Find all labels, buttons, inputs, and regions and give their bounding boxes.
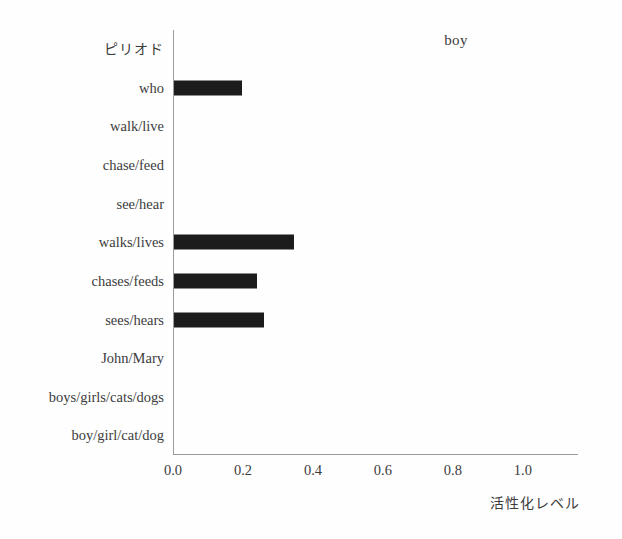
bar-row: walks/lives xyxy=(173,223,578,262)
bar xyxy=(174,80,242,95)
x-axis-tick-label: 1.0 xyxy=(514,462,532,479)
y-axis-tick-label: sees/hears xyxy=(105,313,164,328)
y-axis-tick-label: boy/girl/cat/dog xyxy=(71,428,164,443)
y-axis-tick-label: chase/feed xyxy=(103,158,164,173)
bar xyxy=(174,274,257,289)
bar-row: walk/live xyxy=(173,107,578,146)
y-axis-tick-label: John/Mary xyxy=(101,351,164,366)
x-axis-tick-label: 0.0 xyxy=(164,462,182,479)
bar-row: boys/girls/cats/dogs xyxy=(173,378,578,417)
bar-row: John/Mary xyxy=(173,339,578,378)
x-axis-title: 活性化レベル xyxy=(490,492,580,512)
bar-row: sees/hears xyxy=(173,300,578,339)
bar-row: who xyxy=(173,69,578,108)
bar xyxy=(174,312,264,327)
bar-row: boy/girl/cat/dog xyxy=(173,416,578,455)
y-axis-tick-label: walk/live xyxy=(110,119,164,134)
bar-chart-figure: boy ピリオドwhowalk/livechase/feedsee/hearwa… xyxy=(0,0,622,539)
y-axis-tick-label: who xyxy=(139,81,164,96)
bar-row: chases/feeds xyxy=(173,262,578,301)
bar-row: ピリオド xyxy=(173,30,578,69)
y-axis-tick-label: see/hear xyxy=(117,197,165,212)
y-axis-tick-label: chases/feeds xyxy=(92,274,164,289)
plot-area: ピリオドwhowalk/livechase/feedsee/hearwalks/… xyxy=(173,30,578,455)
x-axis-tick-label: 0.2 xyxy=(234,462,252,479)
x-axis-tick-label: 0.4 xyxy=(304,462,322,479)
y-axis-tick-label: walks/lives xyxy=(99,235,164,250)
y-axis-tick-label: ピリオド xyxy=(104,42,164,56)
x-axis-tick-label: 0.6 xyxy=(374,462,392,479)
bar-row: see/hear xyxy=(173,185,578,224)
bar xyxy=(174,235,294,250)
x-axis-tick-label: 0.8 xyxy=(444,462,462,479)
y-axis-tick-label: boys/girls/cats/dogs xyxy=(49,390,164,405)
bar-row: chase/feed xyxy=(173,146,578,185)
